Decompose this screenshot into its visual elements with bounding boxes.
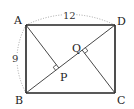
label-q: Q xyxy=(72,42,81,55)
geometry-diagram: A D B C P Q 12 9 xyxy=(0,0,134,109)
label-d: D xyxy=(117,15,126,28)
right-angle-mark-q xyxy=(85,48,88,54)
diagonal-bd xyxy=(26,25,115,93)
label-length-ab: 9 xyxy=(12,53,18,64)
segment-ap xyxy=(26,25,59,68)
label-a: A xyxy=(13,14,23,27)
right-angle-mark-p xyxy=(53,65,56,71)
label-length-ad: 12 xyxy=(63,10,76,21)
label-b: B xyxy=(15,94,23,107)
label-c: C xyxy=(117,94,125,107)
segment-cq xyxy=(82,50,115,93)
label-p: P xyxy=(60,71,68,84)
